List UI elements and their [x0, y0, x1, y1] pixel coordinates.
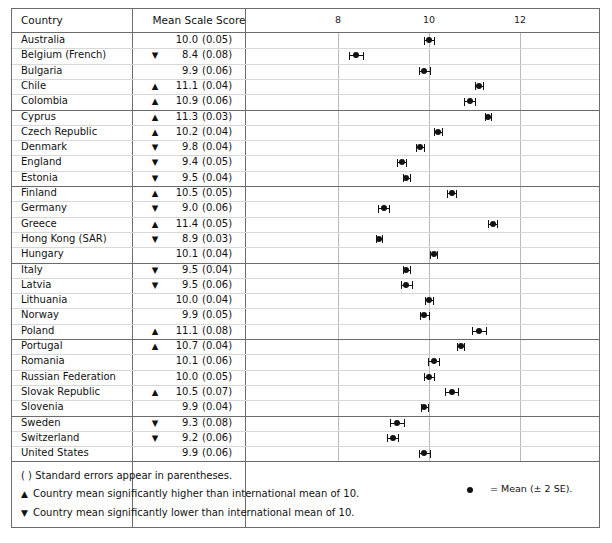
triangle-down-icon: ▼	[149, 280, 161, 291]
row-country: Russian Federation	[21, 371, 116, 382]
triangle-up-icon: ▲	[149, 112, 161, 123]
row-country: Latvia	[21, 279, 51, 290]
row-mean-score: 8.9	[162, 233, 198, 244]
table-row: Chile▲11.1(0.04)	[12, 79, 599, 94]
header-mean-scale-score: Mean Scale Score	[144, 14, 254, 26]
triangle-up-icon: ▲	[149, 341, 161, 352]
table-row: Finland▲10.5(0.05)	[12, 186, 599, 201]
legend-dot-icon	[467, 487, 473, 493]
triangle-down-icon: ▼	[149, 265, 161, 276]
table-row: Hungary10.1(0.04)	[12, 247, 599, 262]
table-row: Switzerland▼9.2(0.06)	[12, 431, 599, 446]
triangle-down-icon: ▼	[149, 50, 161, 61]
table-row: England▼9.4(0.05)	[12, 155, 599, 170]
triangle-down-icon: ▼	[149, 234, 161, 245]
triangle-down-icon: ▼	[149, 142, 161, 153]
table-row: Poland▲11.1(0.08)	[12, 324, 599, 339]
table-row: Colombia▲10.9(0.06)	[12, 94, 599, 109]
row-standard-error: (0.08)	[202, 49, 246, 60]
row-country: Slovenia	[21, 401, 64, 412]
row-country: Bulgaria	[21, 65, 62, 76]
triangle-up-icon: ▲	[149, 127, 161, 138]
row-mean-score: 10.5	[162, 386, 198, 397]
row-standard-error: (0.05)	[202, 218, 246, 229]
table-row: Russian Federation10.0(0.05)	[12, 370, 599, 385]
triangle-up-icon: ▲	[149, 219, 161, 230]
row-standard-error: (0.05)	[202, 309, 246, 320]
row-country: Romania	[21, 355, 65, 366]
row-standard-error: (0.06)	[202, 447, 246, 458]
data-table: Country Mean Scale Score 81012 Australia…	[11, 8, 600, 528]
triangle-up-icon: ▲	[21, 489, 33, 499]
row-country: Greece	[21, 218, 57, 229]
row-standard-error: (0.05)	[202, 156, 246, 167]
row-country: United States	[21, 447, 89, 458]
triangle-up-icon: ▲	[149, 96, 161, 107]
table-row: Czech Republic▲10.2(0.04)	[12, 125, 599, 140]
row-mean-score: 9.9	[162, 447, 198, 458]
table-row: Norway9.9(0.05)	[12, 308, 599, 323]
row-standard-error: (0.05)	[202, 187, 246, 198]
table-row: Romania10.1(0.06)	[12, 354, 599, 369]
axis-tick-10: 10	[423, 14, 435, 25]
triangle-down-icon: ▼	[149, 203, 161, 214]
row-mean-score: 11.3	[162, 111, 198, 122]
row-standard-error: (0.04)	[202, 172, 246, 183]
table-row: Portugal▲10.7(0.04)	[12, 339, 599, 354]
table-row: Lithuania10.0(0.04)	[12, 293, 599, 308]
triangle-up-icon: ▲	[149, 188, 161, 199]
triangle-down-icon: ▼	[149, 157, 161, 168]
row-country: Switzerland	[21, 432, 79, 443]
triangle-down-icon: ▼	[149, 433, 161, 444]
row-mean-score: 10.0	[162, 294, 198, 305]
row-country: Finland	[21, 187, 57, 198]
row-mean-score: 10.9	[162, 95, 198, 106]
figure-root: Country Mean Scale Score 81012 Australia…	[0, 0, 612, 543]
row-mean-score: 9.5	[162, 279, 198, 290]
table-row: Hong Kong (SAR)▼8.9(0.03)	[12, 232, 599, 247]
row-standard-error: (0.04)	[202, 141, 246, 152]
header-country: Country	[21, 14, 63, 26]
row-mean-score: 9.9	[162, 309, 198, 320]
row-country: Germany	[21, 202, 67, 213]
row-standard-error: (0.04)	[202, 294, 246, 305]
row-standard-error: (0.08)	[202, 417, 246, 428]
table-row: Estonia▼9.5(0.04)	[12, 171, 599, 186]
table-row: Sweden▼9.3(0.08)	[12, 416, 599, 431]
table-body: Australia10.0(0.05)Belgium (French)▼8.4(…	[12, 33, 599, 461]
row-standard-error: (0.06)	[202, 279, 246, 290]
row-country: Portugal	[21, 340, 62, 351]
row-country: Hungary	[21, 248, 64, 259]
triangle-up-icon: ▲	[149, 81, 161, 92]
row-country: Czech Republic	[21, 126, 97, 137]
footnote-lower-text: Country mean significantly lower than in…	[33, 507, 354, 518]
row-mean-score: 9.8	[162, 141, 198, 152]
row-mean-score: 11.1	[162, 80, 198, 91]
row-country: Sweden	[21, 417, 61, 428]
row-mean-score: 10.7	[162, 340, 198, 351]
triangle-down-icon: ▼	[149, 418, 161, 429]
row-standard-error: (0.04)	[202, 248, 246, 259]
row-standard-error: (0.08)	[202, 325, 246, 336]
row-standard-error: (0.04)	[202, 126, 246, 137]
row-mean-score: 9.5	[162, 172, 198, 183]
row-mean-score: 9.3	[162, 417, 198, 428]
row-mean-score: 9.9	[162, 401, 198, 412]
table-row: Greece▲11.4(0.05)	[12, 217, 599, 232]
footnote-higher: ▲Country mean significantly higher than …	[21, 488, 359, 499]
row-mean-score: 10.0	[162, 34, 198, 45]
row-standard-error: (0.04)	[202, 80, 246, 91]
row-country: Hong Kong (SAR)	[21, 233, 107, 244]
row-mean-score: 11.4	[162, 218, 198, 229]
row-country: Denmark	[21, 141, 67, 152]
row-mean-score: 11.1	[162, 325, 198, 336]
row-standard-error: (0.04)	[202, 401, 246, 412]
row-mean-score: 8.4	[162, 49, 198, 60]
legend-label: = Mean (± 2 SE).	[490, 483, 572, 494]
row-country: Cyprus	[21, 111, 56, 122]
row-mean-score: 10.1	[162, 355, 198, 366]
row-standard-error: (0.05)	[202, 34, 246, 45]
row-standard-error: (0.04)	[202, 264, 246, 275]
table-row: Denmark▼9.8(0.04)	[12, 140, 599, 155]
footnote-higher-text: Country mean significantly higher than i…	[33, 488, 359, 499]
